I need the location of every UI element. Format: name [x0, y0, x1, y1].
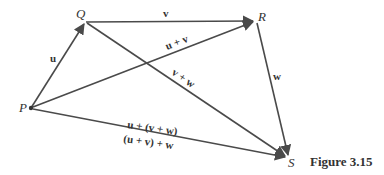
- label-u-plus-v: u + v: [163, 32, 190, 52]
- label-u: u: [50, 52, 56, 64]
- point-label-s: S: [288, 155, 295, 170]
- point-label-r: R: [257, 9, 266, 24]
- point-label-p: P: [18, 100, 27, 115]
- figure-caption: Figure 3.15: [310, 154, 373, 169]
- vector-u: [31, 24, 84, 108]
- vector-u-plus-v: [33, 22, 253, 107]
- point-p-dot: [29, 106, 33, 110]
- point-label-q: Q: [76, 6, 86, 21]
- label-v-plus-w: v + w: [170, 66, 198, 90]
- label-v: v: [163, 7, 169, 19]
- vector-w: [257, 23, 288, 155]
- vector-v: [86, 21, 253, 22]
- label-w: w: [273, 70, 281, 82]
- vector-diagram: Q R P S u v w u + v v + w u + (v + w) (u…: [0, 0, 384, 175]
